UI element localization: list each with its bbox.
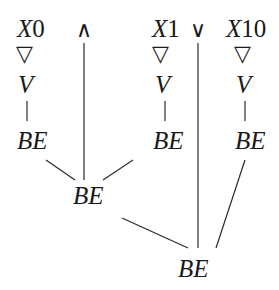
x0-index: 0 [32, 15, 45, 42]
x10-var: X [226, 15, 241, 42]
node-be0: BE [17, 128, 48, 153]
node-be10: BE [235, 128, 266, 153]
triangle-icon-1: ▽ [152, 43, 169, 65]
node-x10: X10 [226, 16, 266, 41]
node-be1: BE [153, 128, 184, 153]
edge-be10-be-root [216, 160, 245, 248]
node-v0: V [18, 72, 33, 97]
x10-index: 10 [241, 15, 266, 42]
x0-var: X [17, 15, 32, 42]
edge-be0-be-and [46, 160, 75, 180]
edge-be-and-be-root [122, 218, 188, 248]
node-x1: X1 [152, 16, 180, 41]
node-v10: V [236, 72, 251, 97]
or-operator: ∨ [190, 19, 206, 41]
triangle-icon-10: ▽ [234, 43, 251, 65]
edge-be1-be-and [103, 160, 133, 180]
x1-index: 1 [167, 15, 180, 42]
and-operator: ∧ [76, 19, 92, 41]
triangle-icon-0: ▽ [16, 43, 33, 65]
x1-var: X [152, 15, 167, 42]
node-v1: V [155, 72, 170, 97]
node-be-and: BE [73, 183, 104, 208]
node-be-root: BE [178, 256, 209, 281]
node-x0: X0 [17, 16, 45, 41]
